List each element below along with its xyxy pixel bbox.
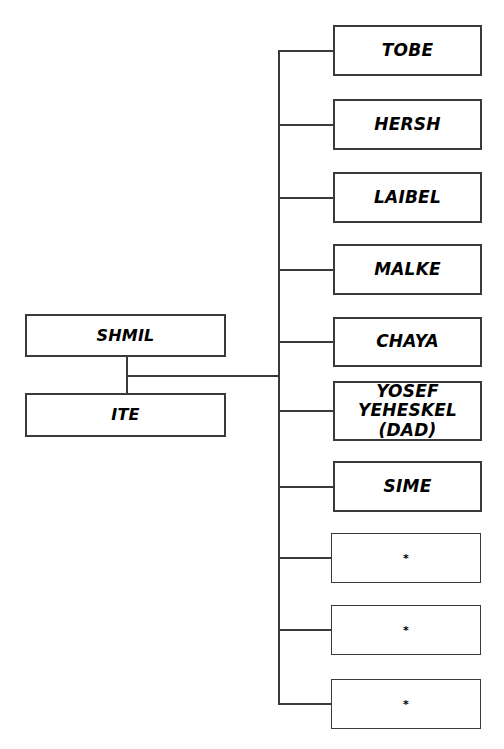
node-label: * (403, 553, 409, 564)
node-child-chaya[interactable]: CHAYA (333, 317, 482, 367)
children-spine (278, 50, 280, 704)
child-branch-connector (278, 50, 333, 52)
node-label: YOSEF YEHESKEL (DAD) (358, 382, 457, 439)
node-label: * (403, 699, 409, 710)
node-child-yosef[interactable]: YOSEF YEHESKEL (DAD) (333, 381, 482, 441)
node-child-tobe[interactable]: TOBE (333, 25, 482, 76)
node-label: * (403, 625, 409, 636)
child-branch-connector (278, 410, 333, 412)
child-branch-connector (278, 269, 333, 271)
node-label: TOBE (382, 41, 433, 60)
child-branch-connector (278, 703, 331, 705)
child-branch-connector (278, 486, 333, 488)
node-child-malke[interactable]: MALKE (333, 244, 482, 295)
family-tree-diagram: SHMIL ITE TOBEHERSHLAIBELMALKECHAYAYOSEF… (0, 0, 504, 749)
node-label: CHAYA (376, 332, 439, 351)
node-child-star2[interactable]: * (331, 605, 481, 655)
parent-to-children-horizontal-connector (126, 375, 280, 377)
node-label: SHMIL (97, 327, 155, 345)
node-child-star3[interactable]: * (331, 679, 481, 729)
node-child-sime[interactable]: SIME (333, 461, 482, 512)
node-parent-ite[interactable]: ITE (25, 393, 226, 437)
child-branch-connector (278, 124, 333, 126)
node-label: ITE (111, 406, 139, 424)
node-label: HERSH (374, 115, 440, 134)
node-label: SIME (384, 477, 432, 496)
node-label: LAIBEL (374, 188, 441, 207)
node-child-hersh[interactable]: HERSH (333, 99, 482, 150)
node-child-laibel[interactable]: LAIBEL (333, 172, 482, 223)
node-parent-shmil[interactable]: SHMIL (25, 314, 226, 357)
child-branch-connector (278, 629, 331, 631)
child-branch-connector (278, 197, 333, 199)
node-label: MALKE (374, 260, 441, 279)
child-branch-connector (278, 557, 331, 559)
child-branch-connector (278, 341, 333, 343)
node-child-star1[interactable]: * (331, 533, 481, 583)
